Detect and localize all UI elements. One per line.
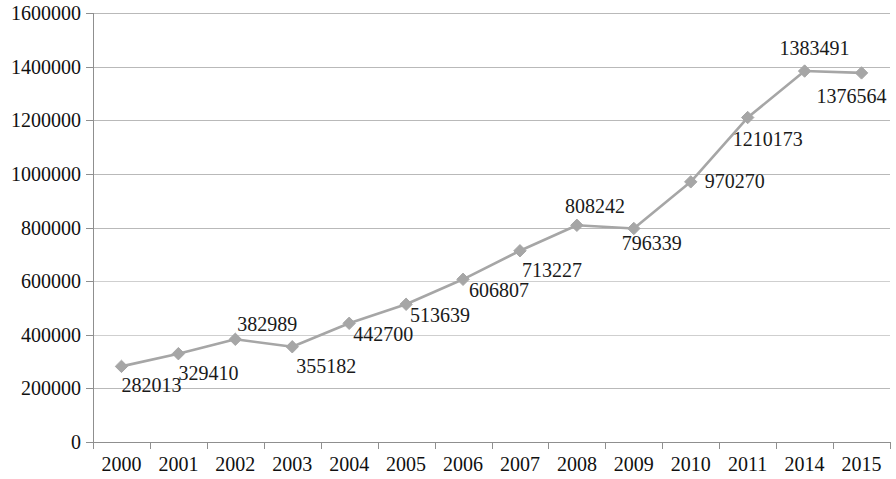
data-point-marker: [286, 341, 298, 353]
data-point-label: 606807: [469, 279, 529, 301]
x-axis-tick-labels: 2000200120022003200420052006200720082009…: [101, 453, 881, 475]
data-point-label: 513639: [410, 304, 470, 326]
data-point-label: 713227: [522, 259, 582, 281]
y-axis-tick-labels: 0200000400000600000800000100000012000001…: [11, 2, 81, 453]
x-axis-tick-label: 2011: [728, 453, 767, 475]
x-axis-tick-label: 2009: [614, 453, 654, 475]
data-point-label: 796339: [622, 232, 682, 254]
data-point-label: 329410: [178, 362, 238, 384]
x-axis-tick-label: 2001: [158, 453, 198, 475]
y-axis-tick-label: 1200000: [11, 109, 81, 131]
data-point-marker: [457, 273, 469, 285]
y-axis-tick-label: 800000: [21, 217, 81, 239]
x-axis-tick-label: 2002: [215, 453, 255, 475]
data-point-marker: [571, 219, 583, 231]
y-axis-tick-label: 600000: [21, 270, 81, 292]
data-point-label: 1383491: [780, 37, 850, 59]
data-point-marker: [855, 67, 867, 79]
x-axis-tick-label: 2003: [272, 453, 312, 475]
data-point-label: 1210173: [733, 128, 803, 150]
x-axis-tick-label: 2015: [842, 453, 882, 475]
x-axis-tick-label: 2004: [329, 453, 369, 475]
x-axis-tick-label: 2014: [785, 453, 825, 475]
data-point-label: 442700: [353, 323, 413, 345]
y-axis-tick-label: 1400000: [11, 56, 81, 78]
data-point-label: 382989: [237, 313, 297, 335]
y-axis-tick-label: 200000: [21, 377, 81, 399]
chart-canvas: 0200000400000600000800000100000012000001…: [0, 0, 896, 479]
data-point-marker: [514, 245, 526, 257]
y-axis-tick-label: 400000: [21, 324, 81, 346]
data-point-label: 808242: [565, 195, 625, 217]
x-axis-tick-label: 2010: [671, 453, 711, 475]
y-axis-tick-label: 0: [71, 431, 81, 453]
data-point-label: 1376564: [817, 85, 887, 107]
x-axis-tick-label: 2008: [557, 453, 597, 475]
x-axis-tick-label: 2005: [386, 453, 426, 475]
data-point-marker: [115, 360, 127, 372]
line-chart: 0200000400000600000800000100000012000001…: [0, 0, 896, 479]
x-axis-tick-label: 2006: [443, 453, 483, 475]
y-axis-tick-label: 1600000: [11, 2, 81, 24]
x-axis-tick-label: 2007: [500, 453, 540, 475]
data-point-label: 970270: [705, 170, 765, 192]
data-point-label: 282013: [121, 374, 181, 396]
x-axis-tick-label: 2000: [101, 453, 141, 475]
data-point-label: 355182: [296, 355, 356, 377]
data-point-marker: [172, 347, 184, 359]
y-axis-tick-label: 1000000: [11, 163, 81, 185]
